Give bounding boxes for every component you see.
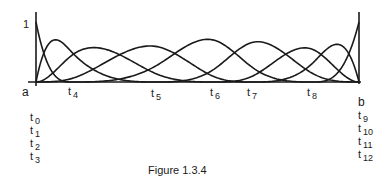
knot-label-t4: t4 [68,86,78,101]
knot-label-t6: t6 [210,87,220,102]
endpoint-label-a: a [22,87,29,98]
basis-curve-N6 [215,48,359,82]
knot-label-t12: t12 [358,149,373,164]
figure-caption: Figure 1.3.4 [148,164,207,176]
y-tick-label-1: 1 [23,19,29,30]
knot-label-t8: t8 [307,87,317,102]
basis-curves [36,22,359,82]
basis-function-plot [0,0,392,188]
knot-label-t5: t5 [151,88,161,103]
knot-label-t3: t3 [30,151,40,166]
endpoint-label-b: b [358,97,365,108]
basis-curve-N8 [313,22,359,82]
knot-label-t7: t7 [247,87,257,102]
